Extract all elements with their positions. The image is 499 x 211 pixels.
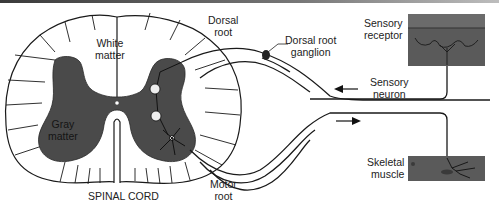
label-line: ganglion xyxy=(285,46,336,58)
label-line: Sensory xyxy=(370,76,409,88)
label-line: neuron xyxy=(370,88,409,100)
skeletal-muscle-tissue xyxy=(408,156,485,181)
label-dorsal-root-ganglion: Dorsal root ganglion xyxy=(285,34,336,58)
label-dorsal-root: Dorsal root xyxy=(208,14,238,38)
label-line: muscle xyxy=(367,168,404,180)
label-line: Motor xyxy=(210,178,237,190)
label-line: Sensory xyxy=(364,17,403,29)
sensory-receptor-tissue xyxy=(408,14,485,66)
label-skeletal-muscle: Skeletal muscle xyxy=(367,156,404,180)
label-gray-matter: Gray matter xyxy=(48,118,78,142)
motor-direction-arrow xyxy=(336,117,361,125)
label-line: White xyxy=(95,37,125,49)
label-line: matter xyxy=(48,130,78,142)
label-line: Dorsal xyxy=(208,14,238,26)
central-canal xyxy=(115,101,119,105)
label-line: Dorsal root xyxy=(285,34,336,46)
sensory-direction-arrow xyxy=(334,85,358,93)
label-spinal-cord: SPINAL CORD xyxy=(88,190,159,202)
label-line: root xyxy=(210,190,237,202)
label-line: Gray xyxy=(48,118,78,130)
label-motor-root: Motor root xyxy=(210,178,237,202)
label-line: matter xyxy=(95,49,125,61)
reflex-arc-diagram xyxy=(0,0,499,211)
label-sensory-receptor: Sensory receptor xyxy=(364,17,403,41)
label-white-matter: White matter xyxy=(95,37,125,61)
label-sensory-neuron: Sensory neuron xyxy=(370,76,409,100)
label-line: Skeletal xyxy=(367,156,404,168)
label-line: root xyxy=(208,26,238,38)
label-line: receptor xyxy=(364,29,403,41)
